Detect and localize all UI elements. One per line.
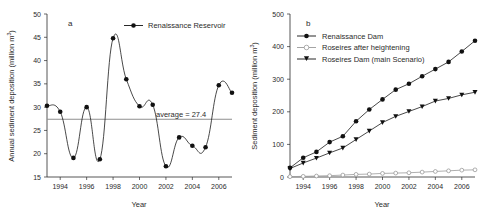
data-point-filled-circle — [137, 104, 142, 109]
annotation-average: average = 27.4 — [156, 110, 206, 119]
data-point-open-circle — [381, 172, 385, 176]
data-point-filled-circle — [45, 103, 50, 108]
data-point-filled-circle — [164, 164, 169, 169]
data-point-open-circle — [394, 171, 398, 175]
x-tick-label: 2006 — [454, 183, 470, 190]
data-point-filled-circle — [216, 83, 221, 88]
legend-marker-filled-circle-icon — [304, 34, 309, 39]
y-axis-title-b-main: Sediment deposition (million m — [250, 48, 259, 150]
data-point-filled-circle — [341, 134, 346, 139]
data-point-filled-triangle — [314, 156, 319, 161]
data-point-filled-circle — [230, 90, 235, 95]
data-point-filled-circle — [177, 135, 182, 140]
data-point-filled-triangle — [433, 99, 438, 104]
panel-label-a: a — [68, 19, 73, 28]
chart-panel-a: 1520253035404550 19941996199820002002200… — [0, 0, 244, 220]
figure-container: 1520253035404550 19941996199820002002200… — [0, 0, 487, 220]
data-point-filled-circle — [407, 81, 412, 86]
y-tick-label: 30 — [33, 104, 41, 111]
x-axis-ticks-b: 1994199619982000200220042006 — [295, 177, 469, 190]
data-point-open-circle — [354, 172, 358, 176]
y-tick-label: 0 — [280, 174, 284, 181]
y-tick-label: 25 — [33, 127, 41, 134]
y-axis-title-b: Sediment deposition (million m3) — [249, 42, 259, 150]
x-tick-label: 1998 — [105, 183, 121, 190]
data-point-open-circle — [420, 170, 424, 174]
data-point-open-circle — [341, 173, 345, 177]
legend-label-roseires-dam-main-scenario: Roseires Dam (main Scenario) — [322, 55, 425, 64]
data-point-open-circle — [460, 168, 464, 172]
data-point-filled-triangle — [340, 146, 345, 151]
data-point-filled-circle — [433, 67, 438, 72]
series-markers-renaissance-reservoir — [45, 36, 235, 169]
data-point-open-circle — [288, 175, 292, 179]
legend-label-roseires-after-heightening: Roseires after heightening — [322, 43, 410, 52]
legend-marker-filled-circle-icon — [131, 23, 136, 28]
data-point-filled-triangle — [367, 129, 372, 134]
y-tick-label: 45 — [33, 34, 41, 41]
data-point-open-circle — [433, 170, 437, 174]
legend-label-renaissance-reservoir: Renaissance Reservoir — [148, 21, 226, 30]
data-point-filled-circle — [203, 145, 208, 150]
data-point-filled-circle — [420, 74, 425, 79]
legend-a: Renaissance Reservoir — [124, 21, 226, 30]
x-axis-ticks-a: 1994199619982000200220042006 — [52, 177, 226, 190]
y-tick-label: 20 — [33, 150, 41, 157]
y-tick-label: 300 — [272, 76, 284, 83]
y-tick-label: 50 — [33, 11, 41, 18]
y-axis-title-a-main: Annual sediment deposition (million m — [7, 35, 16, 161]
data-point-filled-circle — [58, 110, 63, 115]
data-point-filled-triangle — [327, 151, 332, 156]
data-point-open-circle — [301, 174, 305, 178]
x-tick-label: 2004 — [428, 183, 444, 190]
x-tick-label: 1996 — [79, 183, 95, 190]
y-axis-ticks-a: 1520253035404550 — [33, 11, 47, 181]
data-point-filled-circle — [380, 97, 385, 102]
legend-label-renaissance-dam: Renaissance Dam — [322, 32, 383, 41]
y-tick-label: 400 — [272, 43, 284, 50]
data-point-filled-circle — [84, 105, 89, 110]
x-tick-label: 2006 — [211, 183, 227, 190]
data-point-filled-circle — [111, 36, 116, 41]
data-point-filled-triangle — [354, 137, 359, 142]
data-point-filled-circle — [473, 38, 478, 43]
x-axis-title-a: Year — [131, 200, 147, 209]
x-tick-label: 1994 — [295, 183, 311, 190]
svg-text:Sediment deposition (million m: Sediment deposition (million m3) — [249, 42, 259, 150]
x-tick-label: 1996 — [322, 183, 338, 190]
data-point-filled-triangle — [393, 114, 398, 119]
data-point-filled-circle — [459, 49, 464, 54]
data-point-filled-circle — [314, 150, 319, 155]
data-point-filled-circle — [150, 103, 155, 108]
x-tick-label: 2000 — [375, 183, 391, 190]
x-tick-label: 1994 — [52, 183, 68, 190]
x-tick-label: 1998 — [348, 183, 364, 190]
y-tick-label: 200 — [272, 108, 284, 115]
data-point-filled-circle — [354, 119, 359, 124]
data-point-filled-circle — [98, 157, 103, 162]
y-tick-label: 500 — [272, 11, 284, 18]
x-tick-label: 2002 — [158, 183, 174, 190]
data-point-filled-circle — [393, 87, 398, 92]
data-point-filled-triangle — [301, 161, 306, 166]
svg-text:Annual sediment deposition (mi: Annual sediment deposition (million m3) — [6, 30, 16, 162]
y-tick-label: 40 — [33, 57, 41, 64]
chart-a-axes — [47, 14, 232, 177]
x-tick-label: 2002 — [401, 183, 417, 190]
chart-panel-b: 0100200300400500 19941996199820002002200… — [244, 0, 487, 220]
x-tick-label: 2000 — [132, 183, 148, 190]
legend-marker-open-circle-icon — [304, 45, 309, 50]
data-point-open-circle — [367, 172, 371, 176]
series-markers-roseires-dam-main-scenario — [288, 90, 478, 171]
chart-a-svg: 1520253035404550 19941996199820002002200… — [0, 0, 244, 220]
y-axis-title-b-tail: ) — [250, 42, 259, 45]
y-tick-label: 100 — [272, 141, 284, 148]
data-point-filled-triangle — [406, 109, 411, 114]
y-tick-label: 15 — [33, 174, 41, 181]
x-axis-title-b: Year — [374, 200, 390, 209]
data-point-filled-circle — [124, 77, 129, 82]
y-axis-ticks-b: 0100200300400500 — [272, 11, 290, 181]
legend-b: Renaissance Dam Roseires after heighteni… — [297, 32, 425, 64]
data-point-filled-circle — [190, 143, 195, 148]
panel-label-b: b — [306, 19, 311, 28]
